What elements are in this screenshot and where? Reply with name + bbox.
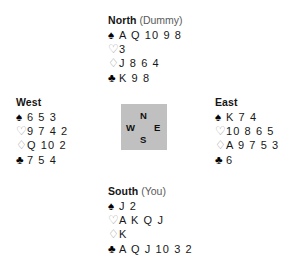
hand-west-spades-line: ♠ 6 5 3 (16, 110, 68, 124)
hand-south: South (You) ♠ J 2 ♡ A K Q J ♢ K ♣ A Q J … (108, 185, 193, 256)
hand-north-spades: A Q 10 9 8 (119, 28, 182, 42)
hand-west-diamonds: Q 10 2 (27, 138, 67, 152)
hand-south-hearts: A K Q J (119, 213, 164, 227)
hand-east-hearts-line: ♡ 10 8 6 5 (215, 124, 279, 138)
compass-south-label: S (140, 135, 146, 145)
hand-south-label: South (You) (108, 185, 193, 198)
diamond-icon: ♢ (16, 138, 27, 152)
hand-south-diamonds: K (119, 227, 127, 241)
hand-west-clubs-line: ♣ 7 5 4 (16, 153, 68, 167)
hand-west-clubs: 7 5 4 (27, 153, 57, 167)
diamond-icon: ♢ (215, 138, 226, 152)
hand-west-seat: West (16, 96, 41, 108)
hand-east-diamonds: A 9 7 5 3 (226, 138, 279, 152)
hand-north: North (Dummy) ♠ A Q 10 9 8 ♡ 3 ♢ J 8 6 4… (108, 14, 183, 85)
hand-south-spades-line: ♠ J 2 (108, 199, 193, 213)
hand-south-hearts-line: ♡ A K Q J (108, 213, 193, 227)
hand-east-spades-line: ♠ K 7 4 (215, 110, 279, 124)
hand-south-role: (You) (141, 185, 166, 197)
hand-north-seat: North (108, 14, 137, 26)
hand-north-label: North (Dummy) (108, 14, 183, 27)
hand-west-label: West (16, 96, 68, 109)
hand-east-spades: K 7 4 (226, 110, 257, 124)
spade-icon: ♠ (16, 110, 27, 124)
bridge-deal-diagram: North (Dummy) ♠ A Q 10 9 8 ♡ 3 ♢ J 8 6 4… (0, 0, 300, 269)
heart-icon: ♡ (108, 42, 119, 56)
heart-icon: ♡ (215, 124, 226, 138)
hand-west: West ♠ 6 5 3 ♡ 9 7 4 2 ♢ Q 10 2 ♣ 7 5 4 (16, 96, 68, 167)
hand-south-spades: J 2 (119, 199, 137, 213)
hand-south-clubs: A Q J 10 3 2 (119, 242, 193, 256)
heart-icon: ♡ (16, 124, 27, 138)
hand-west-hearts: 9 7 4 2 (27, 124, 68, 138)
hand-north-hearts: 3 (119, 42, 126, 56)
spade-icon: ♠ (108, 199, 119, 213)
hand-north-clubs-line: ♣ K 9 8 (108, 71, 183, 85)
compass-west-label: W (126, 123, 135, 133)
compass-east-label: E (154, 123, 160, 133)
compass-north-label: N (140, 111, 147, 121)
compass-rose: N W E S (121, 104, 167, 150)
diamond-icon: ♢ (108, 56, 119, 70)
club-icon: ♣ (108, 71, 119, 85)
hand-south-seat: South (108, 185, 138, 197)
hand-east-seat: East (215, 96, 238, 108)
club-icon: ♣ (16, 153, 27, 167)
hand-east-hearts: 10 8 6 5 (226, 124, 275, 138)
club-icon: ♣ (108, 242, 119, 256)
hand-east-clubs-line: ♣ 6 (215, 153, 279, 167)
diamond-icon: ♢ (108, 227, 119, 241)
hand-east-label: East (215, 96, 279, 109)
hand-north-role: (Dummy) (139, 14, 182, 26)
hand-north-hearts-line: ♡ 3 (108, 42, 183, 56)
hand-east-clubs: 6 (226, 153, 233, 167)
hand-north-clubs: K 9 8 (119, 71, 150, 85)
hand-west-spades: 6 5 3 (27, 110, 57, 124)
hand-south-clubs-line: ♣ A Q J 10 3 2 (108, 242, 193, 256)
hand-north-diamonds: J 8 6 4 (119, 56, 160, 70)
club-icon: ♣ (215, 153, 226, 167)
hand-north-diamonds-line: ♢ J 8 6 4 (108, 56, 183, 70)
hand-west-diamonds-line: ♢ Q 10 2 (16, 138, 68, 152)
spade-icon: ♠ (215, 110, 226, 124)
hand-north-spades-line: ♠ A Q 10 9 8 (108, 28, 183, 42)
hand-east: East ♠ K 7 4 ♡ 10 8 6 5 ♢ A 9 7 5 3 ♣ 6 (215, 96, 279, 167)
spade-icon: ♠ (108, 28, 119, 42)
hand-east-diamonds-line: ♢ A 9 7 5 3 (215, 138, 279, 152)
hand-west-hearts-line: ♡ 9 7 4 2 (16, 124, 68, 138)
hand-south-diamonds-line: ♢ K (108, 227, 193, 241)
heart-icon: ♡ (108, 213, 119, 227)
